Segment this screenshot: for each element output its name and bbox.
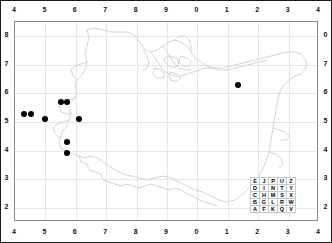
legend-cell: B [251,199,260,206]
record-dot [21,111,27,117]
legend-cell: K [269,206,278,213]
legend-cell: A [251,206,260,213]
legend-cell: M [269,192,278,199]
legend-cell: S [278,192,287,199]
axis-tick-label-bottom: 5 [39,228,49,236]
axis-tick-label-bottom: 6 [70,228,80,236]
legend-cell: E [251,178,260,185]
record-dot [235,82,241,88]
axis-tick-label-bottom: 2 [252,228,262,236]
axis-tick-label-right: 2 [321,203,330,211]
axis-tick-label-top: 2 [252,6,262,14]
axis-tick-label-bottom: 0 [191,228,201,236]
axis-tick-label-right: 3 [321,174,330,182]
axis-tick-label-right: 4 [321,146,330,154]
legend-cell: G [260,199,269,206]
axis-tick-label-right: 6 [321,88,330,96]
axis-tick-label-bottom: 1 [222,228,232,236]
record-dot [64,139,70,145]
axis-tick-label-top: 8 [131,6,141,14]
legend-row: CHMSX [251,192,296,199]
legend-cell: H [260,192,269,199]
legend-cell: Z [287,178,296,185]
legend-row: DINTY [251,185,296,192]
legend-cell: V [287,206,296,213]
axis-tick-label-left: 3 [2,174,11,182]
axis-tick-label-right: 5 [321,117,330,125]
legend-cell: D [251,185,260,192]
legend-row: EJPUZ [251,178,296,185]
axis-tick-label-left: 2 [2,203,11,211]
axis-tick-label-left: 5 [2,117,11,125]
record-dot [42,116,48,122]
legend-cell: T [278,185,287,192]
axis-tick-label-top: 5 [39,6,49,14]
axis-tick-label-top: 3 [283,6,293,14]
dinty-grid-key: EJPUZDINTYCHMSXBGLRWAFKQV [250,177,296,213]
axis-tick-label-right: 0 [321,31,330,39]
record-dot [64,99,70,105]
axis-tick-label-bottom: 3 [283,228,293,236]
record-dot [64,150,70,156]
legend-cell: L [269,199,278,206]
axis-tick-label-right: 7 [321,60,330,68]
axis-tick-label-bottom: 4 [9,228,19,236]
legend-cell: F [260,206,269,213]
legend-cell: N [269,185,278,192]
axis-tick-label-top: 7 [100,6,110,14]
legend-cell: J [260,178,269,185]
distribution-map-figure: 45678901234 45678901234 8765432 0765432 [0,0,332,243]
axis-tick-label-top: 9 [161,6,171,14]
record-dot [28,111,34,117]
axis-tick-label-left: 4 [2,146,11,154]
legend-cell: C [251,192,260,199]
legend-cell: Y [287,185,296,192]
legend-cell: I [260,185,269,192]
axis-tick-label-top: 4 [313,6,323,14]
legend-cell: W [287,199,296,206]
legend-row: AFKQV [251,206,296,213]
axis-tick-label-bottom: 9 [161,228,171,236]
legend-cell: X [287,192,296,199]
axis-tick-label-bottom: 8 [131,228,141,236]
axis-tick-label-top: 1 [222,6,232,14]
legend-cell: Q [278,206,287,213]
record-dot [76,116,82,122]
axis-tick-label-left: 6 [2,88,11,96]
legend-cell: P [269,178,278,185]
axis-tick-label-bottom: 7 [100,228,110,236]
legend-row: BGLRW [251,199,296,206]
axis-tick-label-left: 7 [2,60,11,68]
legend-cell: U [278,178,287,185]
legend-cell: R [278,199,287,206]
axis-tick-label-bottom: 4 [313,228,323,236]
axis-tick-label-top: 4 [9,6,19,14]
axis-tick-label-top: 0 [191,6,201,14]
axis-tick-label-left: 8 [2,31,11,39]
axis-tick-label-top: 6 [70,6,80,14]
